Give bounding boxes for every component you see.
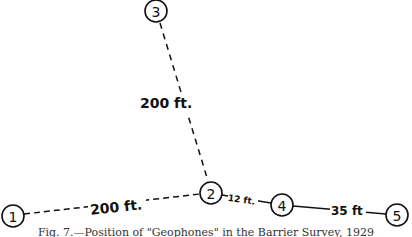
node-5-label: 5 bbox=[393, 208, 402, 224]
node-3-label: 3 bbox=[152, 4, 161, 20]
node-4-label: 4 bbox=[278, 198, 287, 214]
node-1: 1 bbox=[2, 205, 24, 227]
edge-label-3-2: 200 ft. bbox=[140, 95, 192, 111]
geophone-diagram: 200 ft. 200 ft. 12 ft. 35 ft 1 2 3 4 5 bbox=[0, 0, 412, 237]
node-5: 5 bbox=[386, 204, 408, 226]
node-2-label: 2 bbox=[207, 186, 216, 202]
node-1-label: 1 bbox=[9, 209, 18, 225]
node-2: 2 bbox=[200, 182, 222, 204]
node-3: 3 bbox=[145, 0, 167, 22]
figure-caption: Fig. 7.—Position of "Geophones" in the B… bbox=[0, 226, 412, 237]
edge-label-4-5: 35 ft bbox=[331, 204, 363, 218]
node-4: 4 bbox=[271, 194, 293, 216]
